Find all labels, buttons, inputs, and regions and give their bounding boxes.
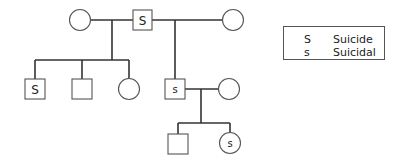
male-III-1 [168,134,188,154]
legend-label: Suicidal [333,46,376,59]
circle-icon [70,10,91,31]
circle-icon [119,79,140,100]
square-icon [72,79,92,99]
legend-symbol: s [304,46,310,59]
square-icon [168,134,188,154]
circle-icon [223,10,244,31]
female-I-1 [70,10,91,31]
female-III-2: s [220,133,241,154]
mark-suicide: S [139,14,147,28]
female-I-3 [223,10,244,31]
legend-box: S Suicide s Suicidal [283,26,385,60]
legend-label: Suicide [333,33,373,46]
male-II-4: s [165,79,185,99]
legend-symbol: S [304,33,311,46]
mark-suicide: S [31,83,39,97]
male-II-2 [72,79,92,99]
female-II-5 [219,79,240,100]
male-II-1: S [25,79,45,99]
circle-icon [219,79,240,100]
female-II-3 [119,79,140,100]
male-I-2: S [133,10,152,30]
mark-suicidal: s [172,84,177,95]
mark-suicidal: s [227,138,232,149]
pedigree-diagram: S S s s [0,0,404,166]
